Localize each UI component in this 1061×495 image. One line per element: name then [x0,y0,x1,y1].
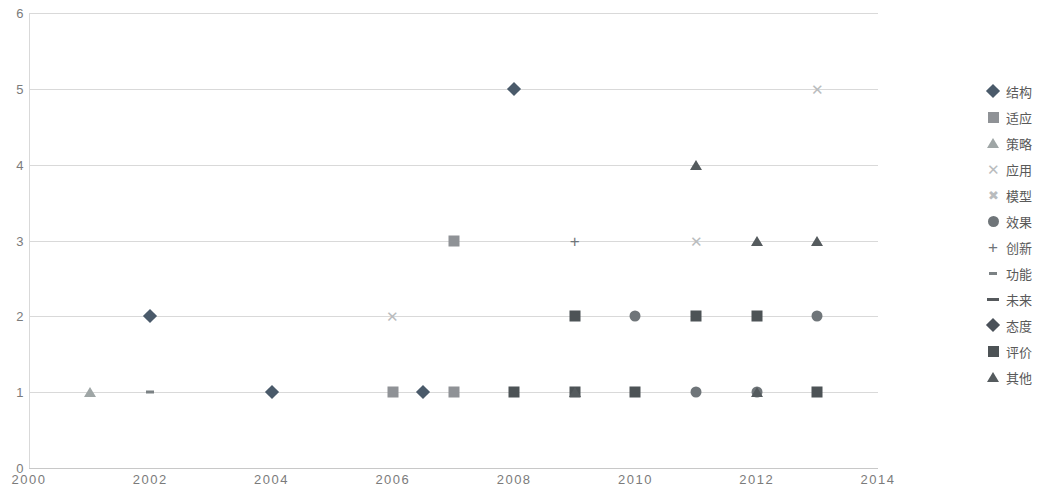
x-axis-tick-labels: 20002002200420062008201020122014 [29,472,1029,492]
marker-x-cross: ✕ [811,81,824,96]
legend-marker-icon [985,343,1001,359]
legend-item-3[interactable]: 策略 [985,130,1061,156]
marker-plus: + [570,232,580,249]
legend-marker-icon: ✖ [985,187,1001,203]
marker-square [751,311,762,322]
marker-diamond [416,385,430,399]
data-point [509,387,520,398]
legend-marker-icon [985,291,1001,307]
data-point [146,391,154,394]
legend-item-label: 效果 [1006,212,1032,231]
legend-item-5[interactable]: ✖模型 [985,182,1061,208]
marker-circle [812,311,823,322]
data-point [690,160,702,170]
y-tick-label-1: 1 [0,385,24,400]
marker-square [630,387,641,398]
marker-diamond [143,309,157,323]
x-tick-label-2006: 2006 [375,472,410,487]
marker-triangle [751,236,763,246]
data-point [691,387,702,398]
legend-item-label: 未来 [1006,290,1032,309]
legend-item-label: 其他 [1006,368,1032,387]
data-point [811,236,823,246]
data-point: ✕ [811,81,824,96]
legend-marker-icon: ✕ [985,161,1001,177]
legend-marker-icon [985,135,1001,151]
marker-diamond [986,318,1000,332]
x-tick-label-2002: 2002 [133,472,168,487]
data-point [812,387,823,398]
grid-line-y-6 [29,13,878,14]
legend-item-label: 评价 [1006,342,1032,361]
grid-line-y-4 [29,165,878,166]
marker-square [569,311,580,322]
plot-area: ✕✕✕++ [29,13,878,468]
legend-item-label: 模型 [1006,186,1032,205]
chart-page: 0123456 ✕✕✕++ 20002002200420062008201020… [0,0,1061,495]
data-point [751,311,762,322]
marker-x-cross: ✕ [987,162,1000,177]
data-point [448,235,459,246]
marker-square [812,387,823,398]
marker-dash-small [146,391,154,394]
legend-item-7[interactable]: +创新 [985,234,1061,260]
grid-line-y-5 [29,89,878,90]
legend-item-12[interactable]: 其他 [985,364,1061,390]
marker-triangle [84,387,96,397]
data-point [569,387,581,397]
data-point [84,387,96,397]
data-point [145,311,155,321]
y-tick-label-4: 4 [0,157,24,172]
legend-item-10[interactable]: 态度 [985,312,1061,338]
marker-square [509,387,520,398]
marker-circle [691,387,702,398]
chart-legend: 结构适应策略✕应用✖模型效果+创新功能未来态度评价其他 [985,78,1061,390]
data-point [569,311,580,322]
x-tick-label-2000: 2000 [12,472,47,487]
legend-item-4[interactable]: ✕应用 [985,156,1061,182]
x-tick-label-2012: 2012 [739,472,774,487]
legend-marker-icon [985,109,1001,125]
marker-square [988,112,999,123]
data-point [387,387,398,398]
marker-circle [988,216,999,227]
legend-item-11[interactable]: 评价 [985,338,1061,364]
marker-triangle [690,160,702,170]
marker-diamond [264,385,278,399]
marker-dash-small [989,272,997,275]
marker-triangle [811,236,823,246]
x-tick-label-2010: 2010 [618,472,653,487]
marker-x-star: ✖ [988,189,999,202]
data-point [691,311,702,322]
marker-square [387,387,398,398]
x-tick-label-2008: 2008 [497,472,532,487]
legend-marker-icon [985,369,1001,385]
legend-item-2[interactable]: 适应 [985,104,1061,130]
marker-circle [630,311,641,322]
data-point: ✕ [690,233,703,248]
legend-item-9[interactable]: 未来 [985,286,1061,312]
x-tick-label-2014: 2014 [861,472,896,487]
marker-square [988,346,999,357]
marker-triangle [987,372,999,382]
data-point [509,84,519,94]
legend-item-label: 策略 [1006,134,1032,153]
data-point: + [570,232,580,249]
y-axis-tick-labels: 0123456 [0,13,24,468]
legend-item-1[interactable]: 结构 [985,78,1061,104]
legend-marker-icon [985,317,1001,333]
data-point [751,236,763,246]
marker-x-cross: ✕ [386,309,399,324]
legend-item-8[interactable]: 功能 [985,260,1061,286]
legend-item-label: 态度 [1006,316,1032,335]
legend-item-6[interactable]: 效果 [985,208,1061,234]
legend-item-label: 功能 [1006,264,1032,283]
legend-item-label: 应用 [1006,160,1032,179]
marker-x-cross: ✕ [690,233,703,248]
data-point [630,387,641,398]
legend-marker-icon [985,213,1001,229]
marker-diamond [986,84,1000,98]
grid-line-y-0 [29,468,878,469]
legend-marker-icon [985,265,1001,281]
marker-dash-large [987,298,999,301]
